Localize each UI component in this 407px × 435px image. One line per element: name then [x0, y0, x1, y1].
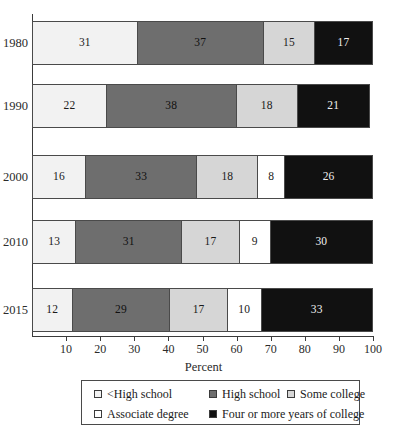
x-axis-tick [100, 336, 101, 341]
x-axis-tick [339, 336, 340, 341]
bar-segment-value: 26 [323, 171, 335, 183]
legend-item-label: High school [222, 388, 280, 400]
bar-segment-value: 38 [165, 100, 177, 112]
bar-segment-value: 16 [53, 171, 65, 183]
bar-segment-value: 17 [193, 304, 205, 316]
x-axis-tick [305, 336, 306, 341]
x-axis-tick [237, 336, 238, 341]
bar-segment-value: 22 [64, 100, 76, 112]
bar-segment-value: 17 [205, 236, 217, 248]
bar-segment-value: 21 [327, 100, 339, 112]
bar-segment-value: 9 [252, 236, 258, 248]
x-axis-title: Percent [0, 360, 407, 375]
bar-segment-value: 18 [221, 171, 233, 183]
bar-segment-value: 33 [311, 304, 323, 316]
bar-segment-value: 10 [238, 304, 250, 316]
legend-row: <High schoolHigh schoolSome college [82, 383, 359, 404]
bar-segment-value: 13 [48, 236, 60, 248]
bar-segment-value: 12 [46, 304, 58, 316]
bar-segment-value: 15 [283, 37, 295, 49]
bar-segment: 30 [271, 220, 373, 264]
bar-segment: 16 [32, 155, 86, 199]
bar-segment: 18 [197, 155, 258, 199]
bar-segment-value: 18 [261, 100, 273, 112]
legend-item: Associate degree [94, 408, 189, 420]
bar-segment-value: 33 [135, 171, 147, 183]
legend-swatch-some-college [287, 390, 295, 398]
legend-swatch-less-than-high-school [94, 390, 102, 398]
y-axis-label-1980: 1980 [0, 37, 28, 50]
bar-segment: 29 [73, 288, 171, 332]
bar-segment-value: 17 [338, 37, 350, 49]
bar-segment: 9 [240, 220, 271, 264]
y-axis-label-2000: 2000 [0, 171, 28, 184]
bar-segment: 37 [138, 21, 264, 65]
legend-item-label: Some college [300, 388, 365, 400]
x-axis-tick [271, 336, 272, 341]
bar-segment-value: 37 [194, 37, 206, 49]
stacked-bar-chart: 3137151722381821163318826133117930122917… [0, 0, 407, 435]
bar-segment: 12 [32, 288, 73, 332]
y-axis-label-2015: 2015 [0, 304, 28, 317]
bar-segment: 10 [228, 288, 262, 332]
bar-segment: 18 [237, 84, 298, 128]
x-axis-tick-label: 100 [353, 343, 393, 355]
bar-segment: 17 [315, 21, 373, 65]
bar-segment-value: 31 [79, 37, 91, 49]
bar-segment: 31 [76, 220, 182, 264]
bar-segment: 31 [32, 21, 138, 65]
x-axis-tick [203, 336, 204, 341]
legend-item-label: Four or more years of college [222, 408, 364, 420]
legend-swatch-four-or-more-years [209, 410, 217, 418]
bar-row-1980: 31371517 [32, 21, 373, 65]
legend-swatch-high-school [209, 390, 217, 398]
y-axis-label-2010: 2010 [0, 236, 28, 249]
bar-segment: 21 [298, 84, 370, 128]
y-axis-label-1990: 1990 [0, 100, 28, 113]
legend-swatch-associate-degree [94, 410, 102, 418]
bar-segment: 38 [107, 84, 237, 128]
legend-item: <High school [94, 388, 172, 400]
bar-row-1990: 22381821 [32, 84, 373, 128]
bar-segment-value: 29 [115, 304, 127, 316]
legend-item-label: <High school [107, 388, 172, 400]
bar-segment: 17 [182, 220, 240, 264]
bar-segment: 15 [264, 21, 315, 65]
bar-segment-value: 8 [268, 171, 274, 183]
legend-item: Four or more years of college [209, 408, 364, 420]
bar-segment: 17 [170, 288, 227, 332]
bar-row-2015: 1229171033 [32, 288, 373, 332]
legend-row: Associate degreeFour or more years of co… [82, 403, 359, 424]
bar-segment-value: 31 [123, 236, 135, 248]
bar-segment-value: 30 [315, 236, 327, 248]
legend: <High schoolHigh schoolSome college Asso… [81, 380, 360, 425]
bar-row-2010: 133117930 [32, 220, 373, 264]
bar-segment: 8 [258, 155, 285, 199]
bar-segment: 33 [262, 288, 373, 332]
bar-row-2000: 163318826 [32, 155, 373, 199]
bar-segment: 13 [32, 220, 76, 264]
x-axis-tick [373, 336, 374, 341]
bar-segment: 26 [285, 155, 373, 199]
legend-item: High school [209, 388, 280, 400]
legend-item-label: Associate degree [107, 408, 189, 420]
bar-segment: 22 [32, 84, 107, 128]
x-axis-tick [168, 336, 169, 341]
bar-segment: 33 [86, 155, 197, 199]
x-axis-tick [66, 336, 67, 341]
legend-item: Some college [287, 388, 365, 400]
x-axis-tick [134, 336, 135, 341]
